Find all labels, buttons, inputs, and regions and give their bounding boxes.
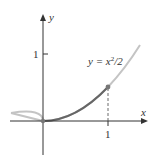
y-axis-arrow-icon bbox=[40, 14, 46, 21]
x-tick-label-1: 1 bbox=[105, 128, 111, 140]
x-axis-label: x bbox=[140, 106, 146, 118]
eq-suffix: /2 bbox=[113, 55, 123, 67]
y-tick-label-1: 1 bbox=[33, 48, 39, 60]
eq-prefix: y = x bbox=[87, 55, 111, 67]
y-axis-label: y bbox=[48, 11, 54, 23]
curve-highlighted-segment bbox=[43, 87, 108, 121]
x-axis-arrow-icon bbox=[141, 118, 148, 124]
parabola-chart: y x 1 1 y = x2/2 bbox=[0, 0, 160, 160]
point-1-half bbox=[106, 85, 111, 90]
curve-equation-label: y = x2/2 bbox=[87, 55, 123, 67]
point-origin bbox=[41, 119, 45, 123]
